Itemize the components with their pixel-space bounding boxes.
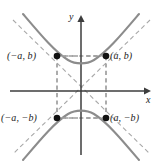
point-label-bottom-right: (a, −b) <box>110 113 139 123</box>
point-dot-top-right <box>103 53 110 60</box>
x-axis-label: x <box>146 95 150 105</box>
y-axis-label: y <box>69 12 73 22</box>
point-label-top-right: (a, b) <box>110 51 132 61</box>
point-dot-bottom-right <box>103 115 110 122</box>
point-label-bottom-left: (−a, −b) <box>1 113 37 123</box>
y-axis-arrowhead <box>77 15 84 22</box>
point-dot-bottom-left <box>54 115 61 122</box>
point-dot-top-left <box>54 53 61 60</box>
hyperbola-figure: (−a, b) (a, b) (−a, −b) (a, −b) y x <box>0 0 157 163</box>
figure-canvas <box>0 0 157 163</box>
point-label-top-left: (−a, b) <box>7 51 36 61</box>
